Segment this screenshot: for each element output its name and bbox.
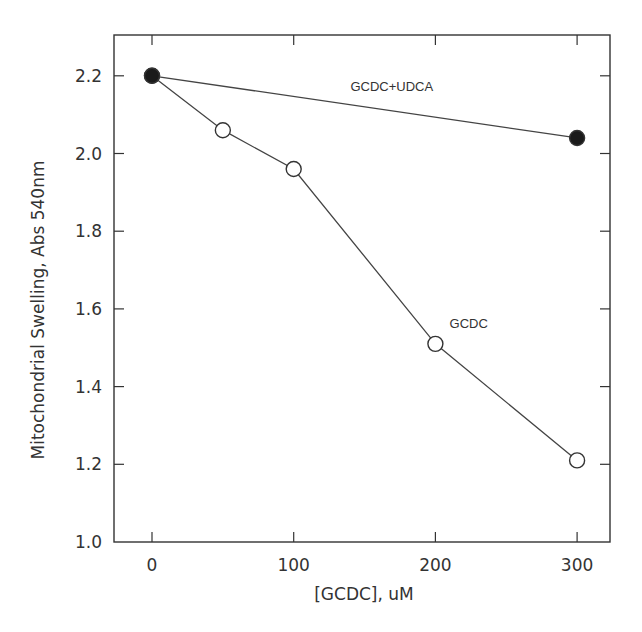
y-axis: 1.01.21.41.61.82.02.2	[75, 66, 610, 552]
y-tick-label: 2.2	[75, 66, 102, 86]
x-axis-title: [GCDC], uM	[314, 584, 414, 604]
series-labels: GCDC+UDCAGCDC	[350, 79, 487, 331]
x-tick-label: 300	[561, 555, 593, 575]
series-label: GCDC	[450, 316, 488, 331]
y-tick-label: 1.4	[75, 377, 102, 397]
filled-circle-marker	[145, 68, 160, 83]
y-tick-label: 1.2	[75, 454, 102, 474]
x-tick-label: 0	[147, 555, 158, 575]
chart: 1.01.21.41.61.82.02.2 0100200300 GCDC+UD…	[0, 0, 642, 632]
y-tick-label: 1.6	[75, 299, 102, 319]
series-label: GCDC+UDCA	[350, 79, 433, 94]
y-tick-label: 2.0	[75, 144, 102, 164]
x-tick-label: 100	[277, 555, 309, 575]
y-tick-label: 1.0	[75, 532, 102, 552]
x-axis: 0100200300	[147, 35, 594, 575]
y-tick-label: 1.8	[75, 221, 102, 241]
open-circle-marker	[428, 336, 443, 351]
plot-frame	[114, 35, 610, 542]
y-axis-title: Mitochondrial Swelling, Abs 540nm	[28, 161, 48, 460]
open-circle-marker	[215, 123, 230, 138]
series-markers	[145, 68, 585, 468]
filled-circle-marker	[570, 130, 585, 145]
open-circle-marker	[286, 162, 301, 177]
x-tick-label: 200	[419, 555, 451, 575]
open-circle-marker	[570, 453, 585, 468]
